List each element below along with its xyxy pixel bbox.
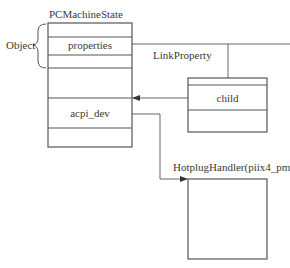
- pcmachinestate-title: PCMachineState: [49, 8, 123, 20]
- child-box: [188, 78, 267, 132]
- hotplug-handler-title: HotplugHandler(piix4_pm): [173, 161, 290, 173]
- diagram-canvas: [0, 0, 290, 268]
- link-property-label: LinkProperty: [153, 49, 212, 61]
- hotplug-handler-box: [188, 179, 267, 259]
- properties-field: properties: [48, 39, 132, 51]
- child-field: child: [188, 92, 267, 104]
- acpi-dev-field: acpi_dev: [48, 107, 132, 119]
- object-label: Object: [6, 39, 35, 51]
